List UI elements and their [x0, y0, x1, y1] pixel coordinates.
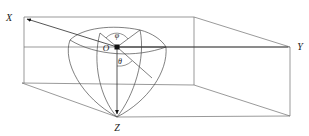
- diagram-canvas: X Y Z O φ θ: [0, 0, 309, 136]
- box-edge-bottom-near: [22, 83, 194, 85]
- box-edge-receding-bottom: [194, 85, 290, 116]
- polar-angle-label: θ: [118, 57, 122, 66]
- coordinate-axes: [27, 19, 288, 114]
- origin-label: O: [103, 43, 110, 53]
- azimuth-angle-label: φ: [115, 31, 120, 40]
- box-edge-floor-left-diagonal: [22, 83, 117, 117]
- box-edge-receding-top: [194, 17, 290, 47]
- origin-point-marker: [115, 45, 120, 50]
- construction-line-origin-to-theta-point: [117, 47, 152, 78]
- sphere-curve-left-meridian: [68, 40, 117, 117]
- y-axis-label: Y: [297, 41, 304, 52]
- spherical-coordinates-figure: X Y Z O φ θ: [0, 0, 309, 136]
- sphere-curve-inner-meridian: [117, 30, 142, 117]
- perspective-box: [22, 17, 290, 117]
- sphere-curve-upper-rim-right: [140, 30, 166, 47]
- box-edge-floor-front: [117, 116, 290, 117]
- x-axis-label: X: [5, 12, 13, 23]
- z-axis-label: Z: [114, 122, 120, 133]
- construction-line-origin-to-phi-point: [117, 30, 140, 47]
